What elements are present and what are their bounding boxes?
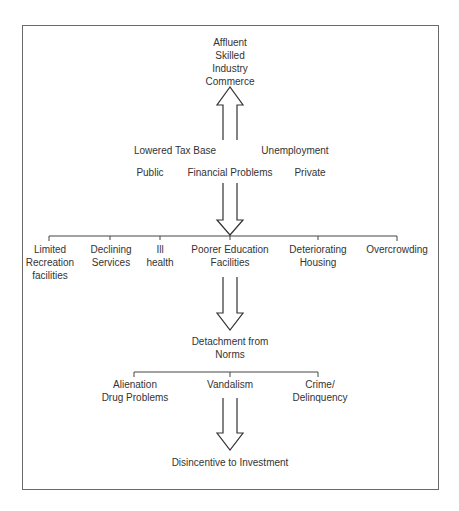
down-arrow-icon	[217, 398, 243, 450]
problem-line: facilities	[22, 269, 78, 282]
problem-line: Declining	[84, 243, 138, 256]
problem-line: Recreation	[22, 256, 78, 269]
consequence-line: Delinquency	[290, 391, 350, 404]
problem-line: Poorer Education	[188, 243, 272, 256]
problem-declining-services: Declining Services	[84, 243, 138, 269]
label-lowered-tax-base: Lowered Tax Base	[130, 144, 220, 157]
problem-line: Deteriorating	[286, 243, 350, 256]
problem-line: health	[142, 256, 178, 269]
label-private: Private	[290, 166, 330, 179]
down-arrow-icon	[217, 277, 243, 330]
label-affluent: Affluent	[190, 36, 270, 49]
consequence-line: Alienation	[100, 378, 170, 391]
problem-ill-health: Ill health	[142, 243, 178, 269]
consequence-crime: Crime/ Delinquency	[290, 378, 350, 404]
consequence-line: Drug Problems	[100, 391, 170, 404]
problem-line: Services	[84, 256, 138, 269]
problem-line: Facilities	[188, 256, 272, 269]
consequence-line: Vandalism	[200, 378, 260, 391]
problem-line: Housing	[286, 256, 350, 269]
label-industry: Industry	[190, 62, 270, 75]
final-outcome: Disincentive to Investment	[160, 456, 300, 469]
up-arrow-icon	[217, 87, 243, 140]
branch-line-problems	[49, 235, 397, 241]
problem-deteriorating-housing: Deteriorating Housing	[286, 243, 350, 269]
problem-overcrowding: Overcrowding	[364, 243, 430, 256]
consequence-line: Crime/	[290, 378, 350, 391]
problem-line: Ill	[142, 243, 178, 256]
down-arrow-icon	[217, 183, 243, 235]
detachment-from-norms: Detachment from Norms	[185, 335, 275, 361]
label-public: Public	[130, 166, 170, 179]
consequence-vandalism: Vandalism	[200, 378, 260, 391]
problem-line: Overcrowding	[364, 243, 430, 256]
problem-poorer-education: Poorer Education Facilities	[188, 243, 272, 269]
label-unemployment: Unemployment	[255, 144, 335, 157]
branch-line-consequences	[134, 372, 318, 377]
label-skilled: Skilled	[190, 49, 270, 62]
detachment-line: Detachment from	[185, 335, 275, 348]
problem-limited-recreation: Limited Recreation facilities	[22, 243, 78, 282]
detachment-line: Norms	[185, 348, 275, 361]
problem-line: Limited	[22, 243, 78, 256]
label-financial-problems: Financial Problems	[185, 166, 275, 179]
label-commerce: Commerce	[190, 75, 270, 88]
top-outcomes: Affluent Skilled Industry Commerce	[190, 36, 270, 88]
consequence-alienation: Alienation Drug Problems	[100, 378, 170, 404]
